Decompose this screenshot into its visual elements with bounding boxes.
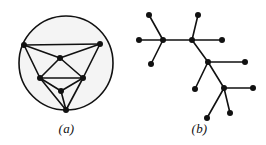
graph-a-edge bbox=[24, 44, 100, 45]
graph-a-node bbox=[63, 107, 69, 113]
tree-b-node bbox=[205, 59, 211, 65]
tree-b-node bbox=[160, 37, 166, 43]
graph-a-node bbox=[37, 75, 43, 81]
tree-b-node-group bbox=[136, 12, 256, 121]
graph-a-node bbox=[58, 88, 64, 94]
tree-b-edge-group bbox=[139, 15, 253, 118]
tree-b-node bbox=[192, 86, 198, 92]
tree-b-edge bbox=[149, 15, 163, 40]
tree-b-edge bbox=[195, 62, 208, 89]
tree-b-node bbox=[219, 37, 225, 43]
graph-a-node bbox=[21, 42, 27, 48]
tree-b-node bbox=[250, 85, 256, 91]
tree-b-node bbox=[242, 59, 248, 65]
figure-root: (a) (b) bbox=[0, 0, 266, 145]
tree-b-node bbox=[148, 61, 154, 67]
tree-b-edge bbox=[207, 88, 224, 118]
caption-a: (a) bbox=[0, 122, 133, 135]
tree-b-node bbox=[221, 85, 227, 91]
tree-b-edge bbox=[151, 40, 163, 64]
tree-b-edge bbox=[192, 15, 198, 40]
tree-b-node bbox=[146, 12, 152, 18]
panel-b: (b) bbox=[133, 0, 266, 145]
tree-b-edge bbox=[192, 40, 208, 62]
tree-b-edge bbox=[208, 62, 224, 88]
tree-b-node bbox=[189, 37, 195, 43]
tree-b-node bbox=[195, 12, 201, 18]
tree-b-node bbox=[136, 37, 142, 43]
graph-a-node bbox=[97, 41, 103, 47]
tree-b-node bbox=[227, 110, 233, 116]
graph-a-node bbox=[57, 55, 63, 61]
tree-b-edge bbox=[224, 88, 230, 113]
graph-a-node bbox=[80, 75, 86, 81]
caption-b: (b) bbox=[133, 122, 266, 135]
panel-a: (a) bbox=[0, 0, 133, 145]
